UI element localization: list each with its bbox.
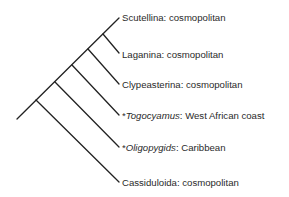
main-stem bbox=[17, 18, 119, 119]
taxon-name: Clypeasterina bbox=[122, 79, 181, 90]
taxon-name: Laganina bbox=[122, 49, 161, 60]
taxon-label-cassiduloida: Cassiduloida: cosmopolitan bbox=[122, 177, 239, 189]
taxon-name: Oligopygids bbox=[126, 142, 176, 153]
taxon-label-scutellina: Scutellina: cosmopolitan bbox=[122, 12, 225, 24]
taxon-name: Cassiduloida bbox=[122, 177, 177, 188]
taxon-distribution: cosmopolitan bbox=[169, 12, 226, 23]
taxon-distribution: Caribbean bbox=[181, 142, 225, 153]
branch-togocyamus bbox=[72, 65, 119, 115]
taxon-name: Scutellina bbox=[122, 12, 164, 23]
branch-oligopygids bbox=[55, 82, 119, 147]
taxon-distribution: cosmopolitan bbox=[167, 49, 224, 60]
branch-clypeasterina bbox=[88, 49, 119, 84]
cladogram-tree bbox=[0, 0, 289, 197]
taxon-label-oligopygids: *Oligopygids: Caribbean bbox=[122, 142, 226, 154]
taxon-distribution: West African coast bbox=[185, 110, 264, 121]
taxon-label-togocyamus: *Togocyamus: West African coast bbox=[122, 110, 264, 122]
taxon-distribution: cosmopolitan bbox=[186, 79, 243, 90]
branch-laganina bbox=[103, 34, 119, 53]
taxon-label-laganina: Laganina: cosmopolitan bbox=[122, 49, 223, 61]
taxon-distribution: cosmopolitan bbox=[182, 177, 239, 188]
taxon-label-clypeasterina: Clypeasterina: cosmopolitan bbox=[122, 79, 243, 91]
branch-cassiduloida bbox=[36, 100, 119, 182]
taxon-name: Togocyamus bbox=[126, 110, 180, 121]
